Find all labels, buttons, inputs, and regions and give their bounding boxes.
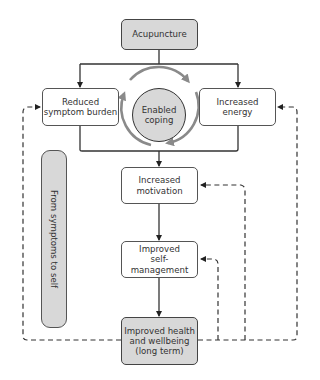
- node-reduced-symptom-burden: Reduced symptom burden: [42, 88, 119, 126]
- node-enabled-coping: Enabled coping: [132, 88, 186, 142]
- node-improved-self-management: Improved self-management: [121, 241, 198, 278]
- node-increased-energy: Increased energy: [199, 88, 276, 126]
- feedback-to-self-management: [201, 259, 218, 340]
- sidebar-from-symptoms-to-self: From symptoms to self: [41, 150, 67, 328]
- node-acupuncture: Acupuncture: [121, 19, 198, 50]
- sidebar-label: From symptoms to self: [49, 190, 59, 288]
- node-improved-health-wellbeing: Improved health and wellbeing (long term…: [121, 317, 198, 365]
- cycle-arrow-top: [130, 67, 188, 81]
- edge-acupuncture-split: [80, 50, 238, 64]
- feedback-to-reduced-symptom: [23, 107, 121, 340]
- feedback-to-increased-energy: [198, 107, 297, 340]
- feedback-to-motivation: [201, 185, 245, 340]
- node-increased-motivation: Increased motivation: [121, 167, 198, 204]
